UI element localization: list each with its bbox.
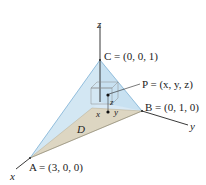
tetrahedron-diagram: z y x C = (0, 0, 1) B = (0, 1, 0) A = (3… — [0, 0, 206, 185]
vertex-A — [29, 157, 31, 159]
vertex-B-label: B = (0, 1, 0) — [145, 101, 199, 114]
x-axis — [16, 158, 30, 169]
y-axis — [142, 111, 188, 125]
y-axis-label: y — [189, 120, 195, 132]
vertex-C-label: C = (0, 0, 1) — [104, 50, 158, 63]
x-axis-label: x — [9, 170, 15, 182]
region-D — [30, 108, 142, 158]
box-y-label: y — [113, 107, 118, 117]
point-P-label: P = (x, y, z) — [142, 78, 193, 91]
region-D-label: D — [76, 123, 85, 135]
vertex-A-label: A = (3, 0, 0) — [29, 161, 83, 174]
vertex-C — [99, 59, 101, 61]
z-axis-label: z — [96, 18, 102, 30]
vertex-B — [141, 110, 143, 112]
point-projection — [106, 110, 109, 113]
box-z-label: z — [109, 97, 114, 107]
box-x-label: x — [95, 109, 100, 119]
